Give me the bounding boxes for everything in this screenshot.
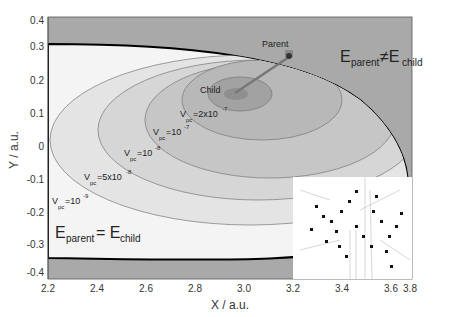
svg-text:0.1: 0.1 [30, 108, 44, 119]
svg-text:0: 0 [38, 141, 44, 152]
svg-text:E: E [340, 48, 351, 65]
svg-text:3.8: 3.8 [403, 283, 417, 294]
svg-text:pc: pc [159, 135, 165, 141]
svg-text:-0.1: -0.1 [27, 174, 45, 185]
svg-text:3.0: 3.0 [237, 283, 251, 294]
x-axis: 2.2 2.4 2.6 2.8 3.0 3.2 3.4 3.6 3.8 [41, 283, 417, 294]
svg-text:-0.3: -0.3 [27, 239, 45, 250]
svg-text:= E: = E [96, 224, 120, 241]
svg-text:=10: =10 [166, 127, 181, 137]
svg-text:=10: =10 [65, 196, 80, 206]
svg-text:-0.2: -0.2 [27, 207, 45, 218]
svg-text:child: child [120, 233, 141, 244]
x-axis-label: X / a.u. [211, 298, 249, 312]
y-axis-label: Y / a.u. [7, 131, 21, 169]
svg-text:pc: pc [58, 204, 64, 210]
svg-text:0.2: 0.2 [30, 75, 44, 86]
svg-text:3.4: 3.4 [335, 283, 349, 294]
svg-text:pc: pc [130, 156, 136, 162]
y-axis: 0.4 0.3 0.2 0.1 0 -0.1 -0.2 -0.3 -0.4 [27, 15, 45, 278]
svg-text:child: child [402, 57, 423, 68]
svg-text:=10: =10 [137, 148, 152, 158]
svg-text:-7: -7 [184, 124, 190, 130]
svg-text:0.3: 0.3 [30, 41, 44, 52]
svg-text:-7: -7 [222, 106, 228, 112]
svg-text:2.2: 2.2 [41, 283, 55, 294]
svg-text:E: E [55, 224, 66, 241]
inset-scatter [293, 177, 412, 279]
svg-text:3.2: 3.2 [286, 283, 300, 294]
parent-label: Parent [262, 39, 289, 49]
svg-text:=5x10: =5x10 [97, 172, 122, 182]
svg-text:≠E: ≠E [380, 48, 399, 65]
svg-text:pc: pc [90, 180, 96, 186]
svg-text:-8: -8 [126, 169, 132, 175]
svg-text:2.8: 2.8 [188, 283, 202, 294]
svg-text:=2x10: =2x10 [193, 109, 218, 119]
svg-text:2.4: 2.4 [90, 283, 104, 294]
svg-text:-0.4: -0.4 [27, 267, 45, 278]
svg-text:-9: -9 [83, 193, 89, 199]
svg-text:parent: parent [351, 57, 380, 68]
svg-text:pc: pc [186, 117, 192, 123]
svg-text:parent: parent [66, 233, 95, 244]
contour-chart: 0.4 0.3 0.2 0.1 0 -0.1 -0.2 -0.3 -0.4 2.… [0, 0, 458, 317]
svg-text:0.4: 0.4 [30, 15, 44, 26]
child-label: Child [200, 85, 221, 95]
svg-text:3.6: 3.6 [384, 283, 398, 294]
svg-text:-8: -8 [155, 145, 161, 151]
svg-text:2.6: 2.6 [139, 283, 153, 294]
